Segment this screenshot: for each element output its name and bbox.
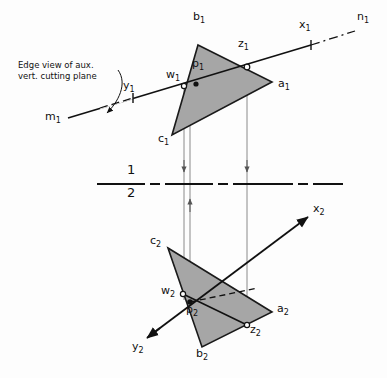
label-z2: z2 <box>250 324 261 338</box>
label-w1: w1 <box>166 69 180 83</box>
label-z1: z1 <box>238 38 249 52</box>
plane-abc-view1-fill <box>172 45 272 135</box>
fold-label-2: 2 <box>127 186 135 199</box>
line-xy-y-arrow <box>147 328 160 338</box>
line-mn-dash-near-y1-ink <box>100 98 133 108</box>
fold-label-1: 1 <box>127 163 135 176</box>
label-x1: x1 <box>299 19 311 33</box>
caption-text: Edge view of aux. vert. cutting plane <box>18 60 97 83</box>
figure-canvas: Edge view of aux. vert. cutting plane 1 … <box>0 0 387 378</box>
label-c2: c2 <box>150 235 161 249</box>
label-p2: p2 <box>186 304 198 318</box>
label-a2: a2 <box>277 303 289 317</box>
label-n1: n1 <box>357 11 369 25</box>
label-b2: b2 <box>196 348 208 362</box>
label-y1: y1 <box>123 80 135 94</box>
point-z2-marker <box>244 322 249 327</box>
label-y2: y2 <box>132 341 144 355</box>
point-z1-marker <box>244 64 250 70</box>
caption-arrow <box>107 70 122 113</box>
label-p1: p1 <box>192 58 204 72</box>
point-p1-marker <box>193 81 198 86</box>
label-b1: b1 <box>193 11 205 25</box>
label-x2: x2 <box>313 203 325 217</box>
label-w2: w2 <box>161 285 175 299</box>
label-m1: m1 <box>45 111 61 125</box>
plane-abc-view1 <box>172 45 272 135</box>
label-c1: c1 <box>158 133 169 147</box>
point-w1-marker <box>181 83 186 88</box>
point-w2-marker <box>180 291 185 296</box>
line-mn-dashed-extension <box>311 31 355 45</box>
label-a1: a1 <box>278 78 290 92</box>
